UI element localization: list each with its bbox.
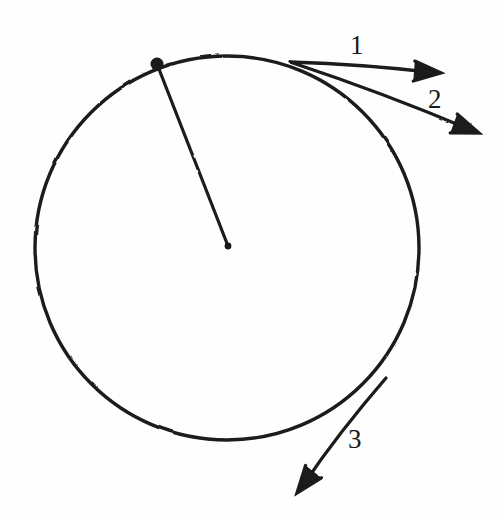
center-dot bbox=[225, 243, 232, 250]
figure-canvas: 1 2 3 bbox=[0, 0, 504, 523]
radius-line bbox=[157, 64, 228, 246]
vector-2 bbox=[290, 62, 479, 133]
vector-1-label: 1 bbox=[350, 32, 364, 59]
vector-2-label: 2 bbox=[428, 86, 442, 113]
vector-3 bbox=[297, 378, 386, 493]
geometry-diagram bbox=[0, 0, 504, 523]
point-on-circle bbox=[151, 58, 164, 71]
vector-3-label: 3 bbox=[348, 426, 362, 453]
